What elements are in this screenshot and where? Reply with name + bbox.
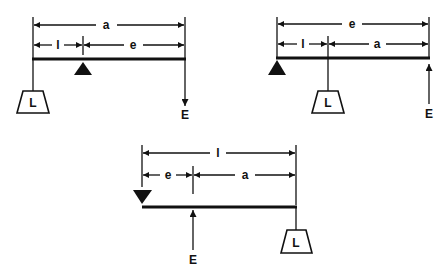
load-label: L xyxy=(29,96,36,110)
load-label: L xyxy=(324,96,331,110)
diagram-third-class-lever: l e a L E xyxy=(133,145,312,267)
dimension-label-inner-left: l xyxy=(56,38,59,52)
load-label: L xyxy=(292,236,299,250)
diagram-first-class-lever: a l e L E xyxy=(17,17,189,122)
dimension-label-outer: e xyxy=(349,17,356,31)
effort-label: E xyxy=(181,108,189,122)
fulcrum-triangle-icon xyxy=(268,60,286,75)
effort-label: E xyxy=(425,107,433,121)
effort-label: E xyxy=(189,253,197,267)
dimension-label-inner-left: e xyxy=(165,168,172,182)
fulcrum-inverted-triangle-icon xyxy=(133,190,152,204)
dimension-label-inner-right: e xyxy=(130,38,137,52)
lever-diagrams: a l e L E e l a L E xyxy=(0,0,447,278)
dimension-label-outer: l xyxy=(216,146,219,160)
diagram-second-class-lever: e l a L E xyxy=(268,17,433,121)
dimension-label-inner-left: l xyxy=(301,37,304,51)
dimension-label-outer: a xyxy=(103,18,110,32)
fulcrum-triangle-icon xyxy=(74,62,92,75)
dimension-label-inner-right: a xyxy=(374,37,381,51)
dimension-label-inner-right: a xyxy=(242,168,249,182)
